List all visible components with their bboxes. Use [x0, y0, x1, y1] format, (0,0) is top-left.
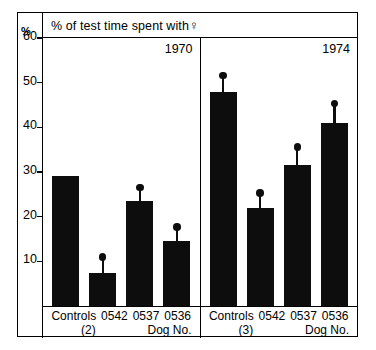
- bar-controls: [210, 92, 237, 306]
- y-tick-label-40: 40: [23, 119, 37, 132]
- y-axis: % 60 50 40 30 20 10: [18, 13, 42, 336]
- x-label-0542: 0542: [101, 309, 128, 323]
- y-tick-label-50: 50: [23, 75, 37, 88]
- x-label-0542: 0542: [259, 309, 286, 323]
- error-bar-dot: [136, 184, 144, 192]
- error-bar-dot: [294, 143, 302, 151]
- error-bar-dot: [331, 100, 339, 108]
- x-label-0537: 0537: [290, 309, 317, 323]
- chart-title-text: % of test time spent with: [51, 19, 189, 33]
- bar-column-0536: [321, 38, 348, 306]
- bar-column-0537: [284, 38, 311, 306]
- bar-column-controls: [210, 38, 237, 306]
- y-tick-label-20: 20: [23, 209, 37, 222]
- x-label-controls: Controls: [209, 309, 254, 323]
- bar-controls: [52, 176, 79, 306]
- x-labels-1974: Controls 0542 0537 0536 (3) Dog No.: [200, 307, 358, 338]
- bar-0542: [247, 208, 274, 306]
- bar-column-controls: [52, 38, 79, 306]
- female-symbol-icon: ♀: [189, 18, 199, 33]
- y-tick-label-10: 10: [23, 253, 37, 266]
- x-axis-label-strip: Controls 0542 0537 0536 (2) Dog No. Cont…: [42, 306, 357, 338]
- bar-column-0537: [126, 38, 153, 306]
- panel-1970: 1970: [43, 38, 200, 306]
- y-tick-label-60: 60: [23, 30, 37, 43]
- control-count-1970: (2): [51, 323, 96, 337]
- bar-column-0542: [247, 38, 274, 306]
- x-label-0536: 0536: [322, 309, 349, 323]
- bar-0542: [89, 273, 116, 307]
- error-bar-dot: [256, 189, 264, 197]
- x-axis-caption-1974: Dog No.: [305, 323, 349, 337]
- error-bar-dot: [219, 72, 227, 80]
- y-tick-label-30: 30: [23, 164, 37, 177]
- bar-0537: [284, 165, 311, 306]
- x-label-0537: 0537: [133, 309, 160, 323]
- bar-0536: [163, 241, 190, 306]
- bar-column-0542: [89, 38, 116, 306]
- error-bar-dot: [173, 223, 181, 231]
- bar-column-0536: [163, 38, 190, 306]
- plot-area: 1970 1974: [42, 38, 357, 306]
- chart-figure: % 60 50 40 30 20 10 % of test time spent: [17, 12, 358, 337]
- x-axis-caption-1970: Dog No.: [147, 323, 191, 337]
- chart-title-strip: % of test time spent with♀: [42, 13, 357, 38]
- x-label-0536: 0536: [164, 309, 191, 323]
- x-label-controls: Controls: [51, 309, 96, 323]
- bar-0537: [126, 201, 153, 306]
- chart-title: % of test time spent with♀: [43, 18, 199, 33]
- bar-group-1974: [201, 38, 358, 306]
- error-bar-dot: [99, 253, 107, 261]
- bar-0536: [321, 123, 348, 306]
- control-count-1974: (3): [209, 323, 254, 337]
- bar-group-1970: [43, 38, 200, 306]
- panel-1974: 1974: [200, 38, 358, 306]
- x-labels-1970: Controls 0542 0537 0536 (2) Dog No.: [43, 307, 200, 338]
